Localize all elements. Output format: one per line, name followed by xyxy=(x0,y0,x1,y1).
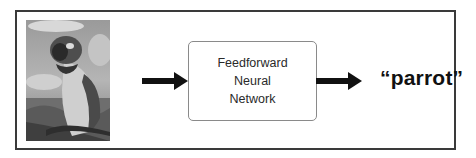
parrot-image xyxy=(26,20,110,141)
model-label-line-1: Feedforward xyxy=(217,54,287,72)
model-label-line-2: Neural xyxy=(234,72,271,90)
model-label-line-3: Network xyxy=(230,90,276,108)
parrot-photo-icon xyxy=(26,20,110,141)
output-label: “parrot” xyxy=(380,66,463,90)
feedforward-neural-network-box: Feedforward Neural Network xyxy=(188,41,317,121)
arrow-right-icon xyxy=(316,71,364,91)
arrow-right-icon xyxy=(142,71,190,91)
